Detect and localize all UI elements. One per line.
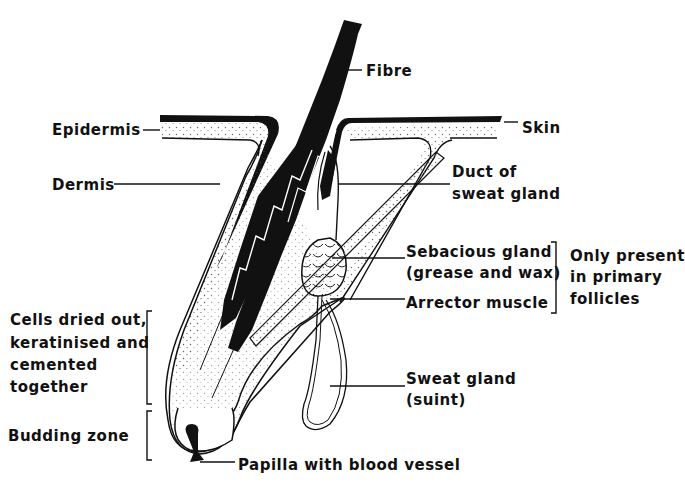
label-sweat-1: Sweat gland (406, 370, 516, 388)
label-dermis: Dermis (52, 176, 115, 194)
label-budding: Budding zone (8, 427, 129, 445)
label-cells-1: Cells dried out, (10, 311, 147, 329)
label-primary-3: follicles (570, 290, 640, 308)
bracket-budding (147, 411, 152, 460)
label-cells-3: cemented (10, 356, 98, 374)
label-duct-1: Duct of (452, 163, 517, 181)
label-cells-4: together (10, 378, 88, 396)
label-primary-2: in primary (570, 268, 662, 286)
sweat-duct (320, 150, 336, 200)
label-sweat-2: (suint) (406, 391, 466, 409)
label-duct-2: sweat gland (452, 185, 560, 203)
label-cells-2: keratinised and (10, 334, 150, 352)
label-arrector: Arrector muscle (406, 294, 549, 312)
label-papilla: Papilla with blood vessel (238, 456, 460, 474)
label-sebaceous-2: (grease and wax) (406, 264, 561, 282)
bracket-cells (147, 311, 152, 404)
label-sebaceous-1: Sebacious gland (406, 243, 552, 261)
bulb-outline (175, 408, 234, 451)
label-fibre: Fibre (366, 62, 412, 80)
label-epidermis: Epidermis (52, 121, 141, 139)
label-skin: Skin (522, 119, 561, 137)
label-primary-1: Only present (570, 247, 685, 265)
